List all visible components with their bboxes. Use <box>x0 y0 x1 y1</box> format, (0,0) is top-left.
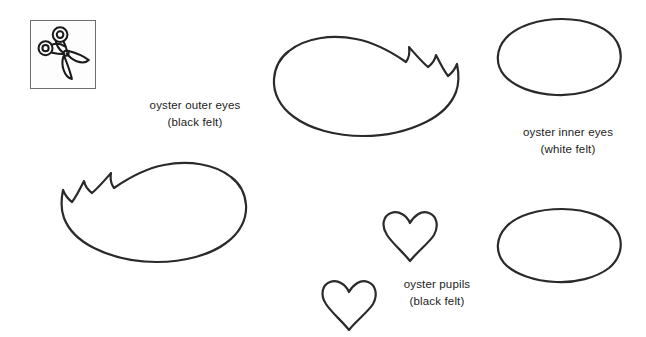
label-outer-eyes-line1: oyster outer eyes <box>150 99 241 111</box>
label-oyster-outer-eyes: oyster outer eyes (black felt) <box>132 97 258 131</box>
shape-outer-eye-right <box>274 37 458 136</box>
shape-inner-eye-bottom <box>498 209 621 282</box>
label-pupils-line1: oyster pupils <box>404 278 471 290</box>
label-oyster-inner-eyes: oyster inner eyes (white felt) <box>504 124 632 158</box>
label-outer-eyes-line2: (black felt) <box>132 114 258 131</box>
shape-inner-eye-top <box>498 19 621 95</box>
label-oyster-pupils: oyster pupils (black felt) <box>382 276 492 310</box>
label-inner-eyes-line2: (white felt) <box>504 141 632 158</box>
label-inner-eyes-line1: oyster inner eyes <box>523 126 613 138</box>
shape-outer-eye-left <box>62 163 246 262</box>
pattern-shapes-canvas <box>0 0 646 337</box>
shape-pupil-lower <box>323 281 376 330</box>
label-pupils-line2: (black felt) <box>382 293 492 310</box>
pattern-sheet: oyster outer eyes (black felt) oyster in… <box>0 0 646 337</box>
shape-pupil-upper <box>384 212 437 261</box>
